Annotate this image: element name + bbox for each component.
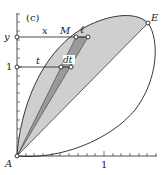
label-one-x: 1 [101, 159, 107, 170]
label-y: y [3, 31, 10, 42]
diagram-canvas: (c) y 1 x M ℓ t dt E A 1 [0, 0, 162, 175]
point-one [15, 65, 19, 69]
point-ell [86, 35, 90, 39]
point-E [146, 21, 150, 25]
point-A [15, 154, 19, 158]
figure: (c) y 1 x M ℓ t dt E A 1 [0, 0, 162, 175]
point-M [74, 35, 78, 39]
label-E: E [150, 12, 159, 23]
label-x: x [42, 25, 48, 36]
label-one-y: 1 [6, 61, 12, 72]
panel-label: (c) [26, 12, 40, 23]
label-dt: dt [63, 55, 73, 65]
point-t [59, 65, 63, 69]
label-A: A [4, 158, 12, 169]
label-ell: ℓ [80, 24, 84, 35]
shaded-region-upper [17, 16, 148, 156]
point-dt [69, 65, 73, 69]
label-t: t [36, 55, 41, 66]
label-M: M [59, 25, 71, 36]
point-y [15, 35, 19, 39]
